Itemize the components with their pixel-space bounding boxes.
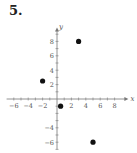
y-tick-label: −4 — [44, 124, 54, 132]
data-point — [40, 78, 45, 83]
x-tick-label: 6 — [98, 102, 102, 110]
y-tick-label: 8 — [50, 38, 54, 46]
scatter-plot: −6−4−22468−6−42468xy — [0, 0, 137, 153]
y-tick-label: 4 — [50, 67, 54, 75]
x-tick-label: 2 — [69, 102, 73, 110]
x-axis-arrow — [124, 97, 128, 101]
x-tick-label: −6 — [9, 102, 19, 110]
y-tick-label: 2 — [50, 81, 54, 89]
y-axis-label: y — [58, 23, 64, 31]
data-point — [76, 39, 81, 44]
y-tick-label: −6 — [44, 139, 54, 147]
y-tick-label: 6 — [50, 52, 54, 60]
x-tick-label: −2 — [38, 102, 48, 110]
data-point — [58, 104, 63, 109]
x-tick-label: 8 — [113, 102, 117, 110]
x-axis-label: x — [130, 95, 134, 103]
x-tick-label: 4 — [84, 102, 88, 110]
x-tick-label: −4 — [23, 102, 33, 110]
data-point — [90, 140, 95, 145]
